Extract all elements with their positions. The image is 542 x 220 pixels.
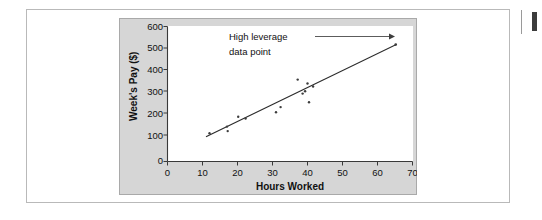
- y-tick-label-400: 400: [147, 64, 163, 75]
- data-point: [306, 82, 308, 84]
- data-point: [237, 116, 239, 118]
- y-tick-label-100: 100: [147, 130, 163, 141]
- data-point: [301, 92, 303, 94]
- data-point: [275, 111, 277, 113]
- y-tick-label-200: 200: [147, 108, 163, 119]
- y-axis-title: Week's Pay ($): [128, 52, 139, 121]
- screenshot-page: Week's Pay ($) 600 500 400 300 200 100 0…: [0, 0, 542, 220]
- page-edge-rule: [521, 10, 522, 34]
- scatterplot-chart: Week's Pay ($) 600 500 400 300 200 100 0…: [119, 18, 417, 195]
- y-tick-label-300: 300: [147, 86, 163, 97]
- page-edge-mark: [532, 12, 537, 31]
- x-tick-label-60: 60: [372, 167, 383, 178]
- high-leverage-data-point: [394, 43, 397, 46]
- x-axis-title: Hours Worked: [256, 181, 324, 192]
- annotation-line-2: data point: [229, 46, 271, 57]
- x-tick-label-40: 40: [302, 167, 313, 178]
- x-tick-label-0: 0: [165, 167, 170, 178]
- x-tick-label-50: 50: [337, 167, 348, 178]
- data-point: [297, 78, 299, 80]
- annotation-arrow-head: [389, 34, 395, 40]
- data-point: [312, 85, 314, 87]
- data-point: [308, 101, 310, 103]
- x-tick-label-30: 30: [267, 167, 278, 178]
- regression-line: [206, 44, 397, 137]
- data-point: [304, 90, 306, 92]
- y-tick-label-500: 500: [147, 42, 163, 53]
- data-point: [227, 130, 229, 132]
- data-point: [279, 106, 281, 108]
- x-tick-label-70: 70: [407, 167, 417, 178]
- y-tick-label-0: 0: [158, 155, 163, 166]
- y-tick-label-600: 600: [147, 21, 163, 32]
- data-point: [208, 132, 210, 134]
- x-tick-label-20: 20: [232, 167, 243, 178]
- annotation-line-1: High leverage: [229, 31, 288, 42]
- data-point: [226, 125, 228, 127]
- x-tick-label-10: 10: [197, 167, 208, 178]
- data-point: [244, 117, 246, 119]
